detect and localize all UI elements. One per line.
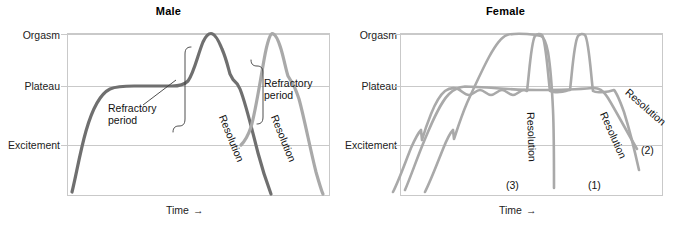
male-curve-first-cycle [72,34,271,195]
annotation-refractory-right-line2: period [264,90,312,102]
annotation-refractory-left-line1: Refractory [108,103,156,115]
series-tag-2: (2) [641,144,654,156]
annotation-refractory-right: Refractory period [264,78,312,102]
annotation-refractory-left: Refractory period [108,103,156,127]
x-axis-label-male: Time→ [166,204,202,216]
series-tag-1: (1) [588,179,601,191]
panel-female: Female Orgasm Plateau Excitement Resolut… [337,0,674,227]
x-axis-label-female-text: Time [499,204,522,216]
annotation-refractory-right-line1: Refractory [264,78,312,90]
male-curve-second-cycle [241,34,323,194]
x-axis-label-male-text: Time [166,204,189,216]
x-axis-arrow-male: → [189,204,203,216]
female-plot-svg [337,0,674,227]
female-curve-2 [405,87,637,191]
annotation-refractory-left-line2: period [108,115,156,127]
annotation-resolution-female-3: Resolution [525,112,539,162]
x-axis-label-female: Time→ [499,204,535,216]
series-tag-3: (3) [506,179,519,191]
x-axis-arrow-female: → [522,204,536,216]
panel-male: Male Orgasm Plateau Excitement Refractor… [0,0,337,227]
refractory-bracket-left [173,47,191,132]
male-plot-svg [0,0,337,227]
